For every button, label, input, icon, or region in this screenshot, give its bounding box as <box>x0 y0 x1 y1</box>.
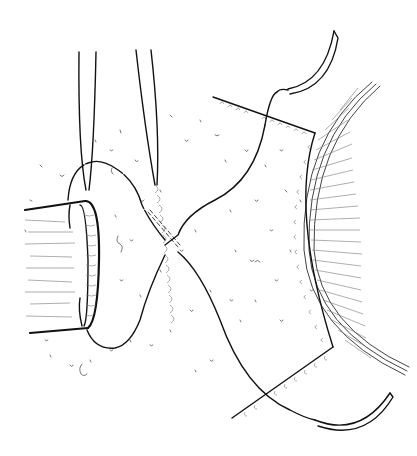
forceps-right <box>136 50 158 185</box>
lower-needle <box>315 393 393 430</box>
vessel-stump <box>25 201 99 333</box>
upper-needle <box>288 31 338 94</box>
globe-arc <box>304 82 409 375</box>
tissue-stipple <box>25 115 313 376</box>
suture-thread <box>68 89 315 420</box>
illustration-canvas <box>0 0 417 456</box>
surgical-illustration <box>0 0 417 456</box>
forceps-left <box>79 52 96 190</box>
